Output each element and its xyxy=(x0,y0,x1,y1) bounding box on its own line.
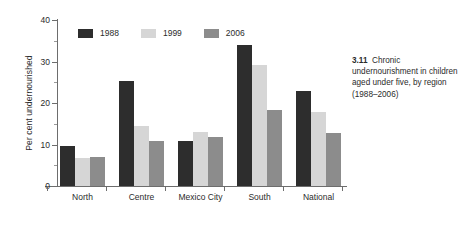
y-tick-label: 40 xyxy=(28,16,50,25)
x-tick-mark xyxy=(47,186,48,191)
legend: 198819992006 xyxy=(78,28,267,38)
legend-entry-2006: 2006 xyxy=(204,28,245,38)
x-tick-mark xyxy=(106,186,107,191)
bar-group-bars xyxy=(178,20,223,186)
bar-1988-centre xyxy=(119,81,134,186)
bar-1999-north xyxy=(75,158,90,186)
legend-swatch-2006 xyxy=(204,29,219,38)
bar-group-bars xyxy=(237,20,282,186)
bar-1999-south xyxy=(252,65,267,186)
bar-1988-south xyxy=(237,45,252,186)
plot-area xyxy=(57,20,345,186)
x-tick-mark xyxy=(165,186,166,191)
caption-number: 3.11 xyxy=(352,56,367,65)
bar-group-bars xyxy=(119,20,164,186)
legend-swatch-1988 xyxy=(78,29,93,38)
legend-label-2006: 2006 xyxy=(226,28,245,38)
bar-2006-south xyxy=(267,110,282,186)
legend-entry-1988: 1988 xyxy=(78,28,119,38)
bar-2006-north xyxy=(90,157,105,186)
x-category-label: National xyxy=(276,192,361,203)
x-axis-line xyxy=(45,186,347,187)
legend-swatch-1999 xyxy=(141,29,156,38)
bar-1999-centre xyxy=(134,126,149,186)
y-tick-mark xyxy=(52,186,57,187)
x-tick-mark xyxy=(224,186,225,191)
x-tick-mark xyxy=(283,186,284,191)
bar-1999-national xyxy=(311,112,326,186)
bar-1999-mexico-city xyxy=(193,132,208,186)
bar-group-bars xyxy=(296,20,341,186)
bar-group-bars xyxy=(60,20,105,186)
legend-entry-1999: 1999 xyxy=(141,28,182,38)
bar-2006-centre xyxy=(149,141,164,186)
y-tick-label: 30 xyxy=(28,58,50,67)
figure-chronic-undernourishment: Per cent undernourished 010203040 NorthC… xyxy=(0,0,465,226)
y-tick-label: 10 xyxy=(28,141,50,150)
legend-label-1988: 1988 xyxy=(100,28,119,38)
bar-2006-national xyxy=(326,133,341,186)
bar-1988-north xyxy=(60,146,75,186)
bar-1988-mexico-city xyxy=(178,141,193,186)
bar-2006-mexico-city xyxy=(208,137,223,186)
bar-1988-national xyxy=(296,91,311,186)
legend-label-1999: 1999 xyxy=(163,28,182,38)
figure-caption: 3.11 Chronic undernourishment in childre… xyxy=(352,55,458,100)
y-tick-label: 20 xyxy=(28,99,50,108)
x-tick-mark xyxy=(342,186,343,191)
